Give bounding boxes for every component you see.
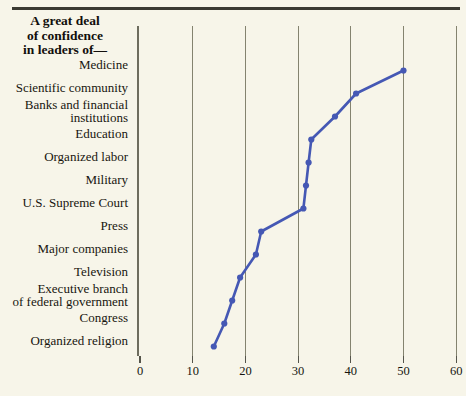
series-markers-group [211, 67, 407, 349]
x-tick-label-0: 0 [125, 364, 155, 379]
data-point-10 [229, 297, 235, 303]
x-tick-40 [350, 356, 351, 363]
data-point-7 [258, 228, 264, 234]
x-tick-0 [139, 356, 140, 363]
x-tick-label-10: 10 [178, 364, 208, 379]
category-label-0: Medicine [79, 58, 128, 72]
data-point-9 [237, 274, 243, 280]
category-label-10: Executive branch of federal government [12, 282, 128, 309]
data-point-6 [300, 205, 306, 211]
category-label-3: Education [75, 127, 128, 141]
data-point-11 [221, 320, 227, 326]
category-label-6: U.S. Supreme Court [23, 196, 128, 210]
chart-title-line-2: of confidence [0, 29, 130, 44]
gridline-60 [456, 26, 457, 356]
x-tick-30 [298, 356, 299, 363]
chart-title-line-1: A great deal [0, 14, 130, 29]
chart-title: A great deal of confidence in leaders of… [0, 14, 130, 58]
category-label-5: Military [85, 173, 128, 187]
top-rule-divider [12, 7, 460, 10]
x-tick-50 [403, 356, 404, 363]
x-tick-60 [456, 356, 457, 363]
data-point-2 [332, 113, 338, 119]
x-tick-label-30: 30 [283, 364, 313, 379]
x-tick-10 [192, 356, 193, 363]
category-label-9: Television [74, 265, 128, 279]
data-point-3 [308, 136, 314, 142]
x-tick-label-20: 20 [230, 364, 260, 379]
gridline-30 [298, 26, 299, 356]
gridline-50 [403, 26, 404, 356]
category-label-11: Congress [80, 311, 128, 325]
x-tick-label-50: 50 [389, 364, 419, 379]
chart-title-line-3: in leaders of— [0, 43, 130, 58]
category-label-12: Organized religion [30, 334, 128, 348]
gridline-40 [350, 26, 351, 356]
x-tick-label-60: 60 [441, 364, 466, 379]
data-point-12 [211, 343, 217, 349]
series-polyline [214, 71, 404, 347]
x-tick-20 [245, 356, 246, 363]
category-label-1: Scientific community [16, 81, 128, 95]
gridline-20 [245, 26, 246, 356]
category-label-4: Organized labor [44, 150, 128, 164]
x-tick-label-40: 40 [336, 364, 366, 379]
category-label-8: Major companies [37, 242, 128, 256]
y-axis-line [137, 26, 139, 356]
category-label-2: Banks and financial institutions [25, 98, 128, 125]
data-point-5 [303, 182, 309, 188]
data-point-1 [353, 90, 359, 96]
gridline-10 [192, 26, 193, 356]
category-label-7: Press [101, 219, 128, 233]
data-point-8 [253, 251, 259, 257]
data-point-4 [306, 159, 312, 165]
chart-container: A great deal of confidence in leaders of… [0, 0, 466, 396]
